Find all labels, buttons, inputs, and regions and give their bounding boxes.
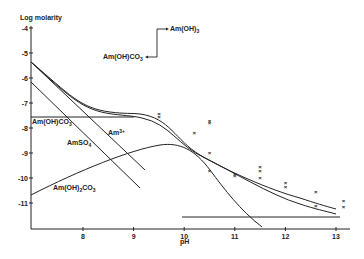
x-marker: × bbox=[208, 168, 212, 174]
label-am-oh-co3-line: Am(OH)CO3 bbox=[32, 118, 72, 127]
x-marker: × bbox=[258, 175, 262, 181]
y-tick-label: -11 bbox=[18, 200, 28, 207]
x-marker: × bbox=[342, 198, 346, 204]
x-tick-label: 8 bbox=[81, 233, 85, 240]
y-tick-label: -9 bbox=[22, 150, 28, 157]
y-tick-label: -5 bbox=[22, 50, 28, 57]
arrow-annotation bbox=[145, 28, 169, 59]
y-tick-label: -6 bbox=[22, 75, 28, 82]
data-points: ×××××××××××××××××× bbox=[157, 111, 346, 210]
y-tick-label: -10 bbox=[18, 175, 28, 182]
x-marker: × bbox=[314, 189, 318, 195]
y-axis-label: Log molarity bbox=[20, 14, 62, 22]
x-marker: × bbox=[342, 204, 346, 210]
x-tick-label: 9 bbox=[132, 233, 136, 240]
x-tick-label: 11 bbox=[231, 233, 239, 240]
y-tick-label: -7 bbox=[22, 100, 28, 107]
y-tick-label: -4 bbox=[22, 25, 28, 32]
y-tick-label: -8 bbox=[22, 125, 28, 132]
label-am-oh3-top: Am(OH)3 bbox=[170, 25, 199, 34]
x-marker: × bbox=[157, 114, 161, 120]
x-marker: × bbox=[233, 173, 237, 179]
x-tick-label: 10 bbox=[180, 233, 188, 240]
x-tick-label: 13 bbox=[332, 233, 340, 240]
x-marker: × bbox=[314, 203, 318, 209]
x-marker: × bbox=[284, 184, 288, 190]
amso4-line bbox=[31, 82, 140, 188]
x-tick-label: 12 bbox=[282, 233, 290, 240]
label-amso4: AmSO4 bbox=[67, 139, 91, 148]
x-marker: × bbox=[208, 120, 212, 126]
solubility-chart: Log molarity pH -4-5-6-7-8-9-10-11 89101… bbox=[0, 0, 364, 259]
label-am3: Am3+ bbox=[108, 128, 125, 137]
x-marker: × bbox=[193, 130, 197, 136]
x-marker: × bbox=[208, 150, 212, 156]
label-am-oh-co3-top: Am(OH)CO3 bbox=[103, 53, 143, 62]
label-am-oh2-co3: Am(OH)2CO3 bbox=[53, 184, 96, 193]
x-marker: × bbox=[258, 168, 262, 174]
total-solubility-lower bbox=[31, 62, 336, 214]
